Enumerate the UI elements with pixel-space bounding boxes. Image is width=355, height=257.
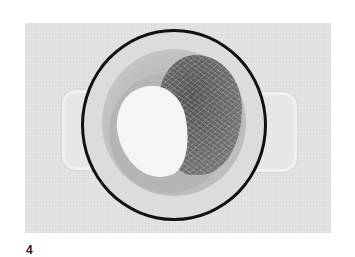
recipe-step-photo: [25, 23, 331, 233]
step-number: 4: [26, 244, 33, 256]
pot-interior: [102, 49, 246, 196]
pot-rim: [81, 29, 267, 221]
